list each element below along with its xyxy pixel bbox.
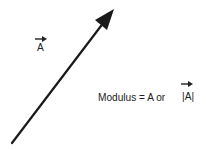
modulus-absolute-value: |A| <box>182 91 194 102</box>
vector-label: A <box>37 42 44 53</box>
modulus-text: Modulus = A or <box>98 92 165 103</box>
vector-arrow-graphic <box>0 0 206 150</box>
modulus-vector-arrow-icon <box>181 81 193 87</box>
main-vector-arrow <box>12 9 114 143</box>
vector-diagram: A Modulus = A or |A| <box>0 0 206 150</box>
